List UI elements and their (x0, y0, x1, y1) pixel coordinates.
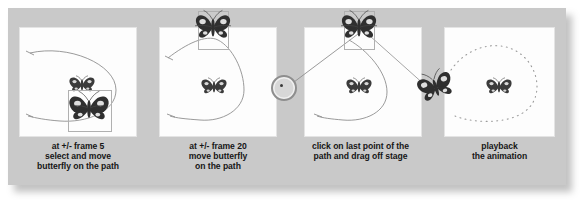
butterfly-small[interactable] (485, 76, 513, 98)
butterfly-dragged-off-stage[interactable] (415, 68, 457, 108)
butterfly-small[interactable] (200, 76, 228, 98)
stage-frame-5[interactable] (20, 28, 136, 136)
tutorial-figure: at +/- frame 5 select and move butterfly… (8, 8, 566, 185)
step-4-caption: playback the animation (433, 141, 566, 161)
cursor-ring-center-dot (280, 84, 283, 87)
step-2-caption: at +/- frame 20 move butterfly on the pa… (148, 141, 288, 172)
step-3-caption: click on last point of the path and drag… (288, 141, 433, 161)
step-1-caption: at +/- frame 5 select and move butterfly… (8, 141, 148, 172)
butterfly-selected-step-3[interactable] (338, 8, 380, 52)
cursor-ring-marker[interactable] (271, 75, 297, 101)
butterfly-selected[interactable] (66, 88, 112, 132)
stage-playback[interactable] (445, 28, 554, 136)
butterfly-selected-step-2[interactable] (192, 8, 234, 52)
butterfly-small[interactable] (345, 76, 373, 98)
step-1: at +/- frame 5 select and move butterfly… (8, 8, 148, 185)
